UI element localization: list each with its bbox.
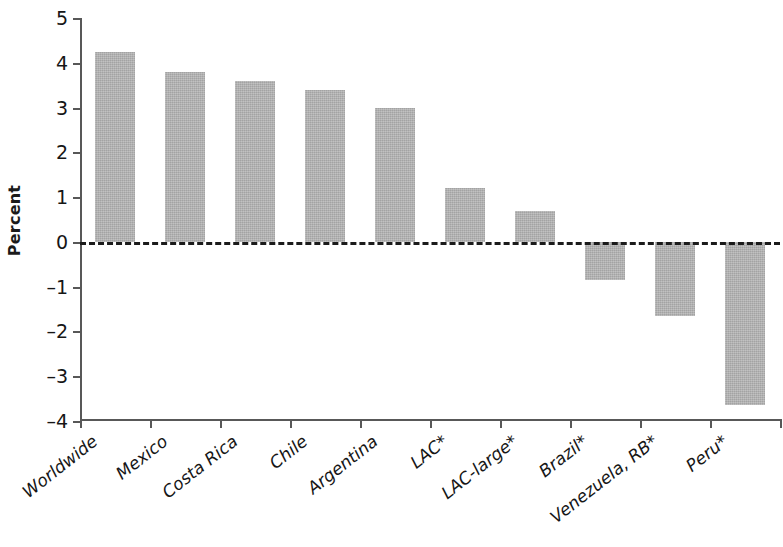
x-axis-tick-mark — [780, 419, 782, 428]
bar — [375, 108, 415, 242]
x-axis-tick-mark — [360, 419, 362, 428]
bar — [515, 211, 555, 242]
x-axis-tick-mark — [500, 419, 502, 428]
x-axis-tick-mark — [710, 419, 712, 428]
y-axis-tick-mark — [73, 108, 81, 110]
bar — [235, 81, 275, 242]
y-axis-tick-label: 4 — [56, 52, 68, 74]
bar — [655, 242, 695, 316]
y-axis-tick-label: 0 — [56, 231, 68, 253]
y-axis-tick-mark — [73, 197, 81, 199]
bar — [95, 52, 135, 242]
zero-reference-line — [80, 242, 780, 245]
x-axis-tick-label: Costa Rica — [158, 431, 241, 502]
x-axis-tick-label: Peru* — [682, 431, 731, 476]
bar — [165, 72, 205, 242]
x-axis-tick-mark — [80, 419, 82, 428]
x-axis-tick-mark — [570, 419, 572, 428]
bar — [585, 242, 625, 280]
chart-figure: Percent 543210–1–2–3–4 WorldwideMexicoCo… — [0, 0, 783, 547]
bar — [305, 90, 345, 242]
y-axis-tick-label: –1 — [46, 276, 68, 298]
y-axis-tick-label: –2 — [46, 320, 68, 342]
y-axis-tick-mark — [73, 152, 81, 154]
bar — [725, 242, 765, 405]
x-axis-tick-label: LAC* — [406, 431, 451, 472]
x-axis-tick-mark — [150, 419, 152, 428]
x-axis-tick-label: LAC-large* — [437, 431, 521, 503]
y-axis-tick-mark — [73, 63, 81, 65]
y-axis-tick-mark — [73, 287, 81, 289]
x-axis-tick-label: Worldwide — [18, 431, 101, 502]
y-axis-title-text: Percent — [6, 184, 25, 255]
x-axis-tick-mark — [430, 419, 432, 428]
y-axis-tick-label: 5 — [56, 7, 68, 29]
x-axis-tick-label: Argentina — [303, 431, 381, 498]
x-axis-tick-label: Mexico — [112, 431, 171, 483]
bar — [445, 188, 485, 242]
y-axis-tick-mark — [73, 18, 81, 20]
y-axis-line — [80, 18, 82, 421]
y-axis-tick-label: –3 — [46, 365, 68, 387]
x-axis-tick-label: Brazil* — [535, 431, 591, 481]
y-axis-tick-label: –4 — [46, 410, 68, 432]
x-axis-tick-mark — [640, 419, 642, 428]
y-axis-tick-mark — [73, 331, 81, 333]
plot-area: 543210–1–2–3–4 — [80, 18, 780, 421]
y-axis-tick-mark — [73, 376, 81, 378]
x-axis-tick-label: Chile — [265, 431, 311, 473]
y-axis-title: Percent — [0, 150, 30, 290]
y-axis-tick-label: 2 — [56, 141, 68, 163]
x-axis-tick-mark — [290, 419, 292, 428]
x-axis-tick-mark — [220, 419, 222, 428]
y-axis-tick-label: 3 — [56, 97, 68, 119]
y-axis-tick-label: 1 — [56, 186, 68, 208]
